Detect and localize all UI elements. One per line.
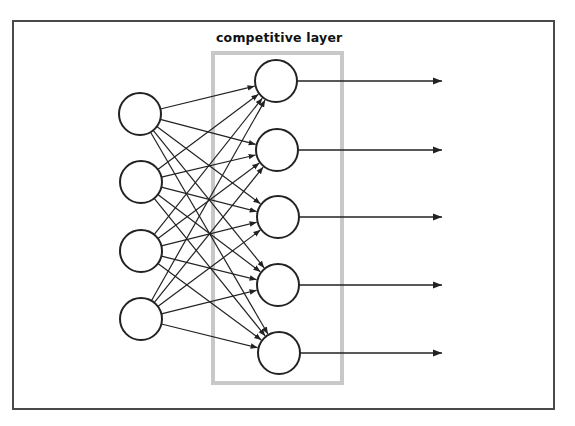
- competitive-node-c5: [258, 332, 300, 374]
- input-node-in3: [120, 230, 162, 272]
- competitive-node-c3: [257, 196, 299, 238]
- output-arrows: [297, 81, 442, 353]
- edge-in4-c2: [154, 167, 263, 303]
- input-node-in4: [120, 298, 162, 340]
- edge-in2-c4: [158, 195, 261, 272]
- competitive-node-c1: [255, 60, 297, 102]
- edge-in4-c5: [161, 324, 257, 348]
- competitive-node-c2: [256, 129, 298, 171]
- input-layer-nodes: [119, 93, 162, 340]
- edge-in4-c1: [151, 100, 265, 301]
- competitive-node-c4: [257, 264, 299, 306]
- input-node-in1: [119, 93, 161, 135]
- connection-edges: [151, 86, 268, 348]
- network-diagram: [0, 0, 575, 426]
- input-node-in2: [120, 161, 162, 203]
- competitive-layer-label: competitive layer: [216, 30, 340, 45]
- edge-in1-c1: [160, 86, 254, 109]
